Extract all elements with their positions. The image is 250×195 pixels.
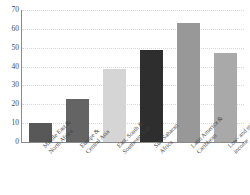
gridline (22, 67, 244, 68)
y-axis-tick-label: 70 (1, 6, 19, 14)
gridline (22, 104, 244, 105)
y-axis-tick-label: 40 (1, 63, 19, 71)
gridline (22, 10, 244, 11)
y-axis-tick-label: 20 (1, 101, 19, 109)
bar-chart: 706050403020100 Middle East &North Afric… (0, 0, 250, 195)
gridline (22, 29, 244, 30)
y-axis-tick-label: 60 (1, 25, 19, 33)
x-axis-category-labels: Middle East &North AfricaEurope &Central… (22, 144, 244, 195)
y-axis-tick-label: 0 (1, 138, 19, 146)
y-axis-tick-label: 50 (1, 44, 19, 52)
bar (177, 23, 200, 142)
y-axis-tick-labels: 706050403020100 (0, 0, 19, 195)
y-axis-tick-label: 10 (1, 119, 19, 127)
gridline (22, 85, 244, 86)
y-axis-tick-label: 30 (1, 82, 19, 90)
gridline (22, 48, 244, 49)
